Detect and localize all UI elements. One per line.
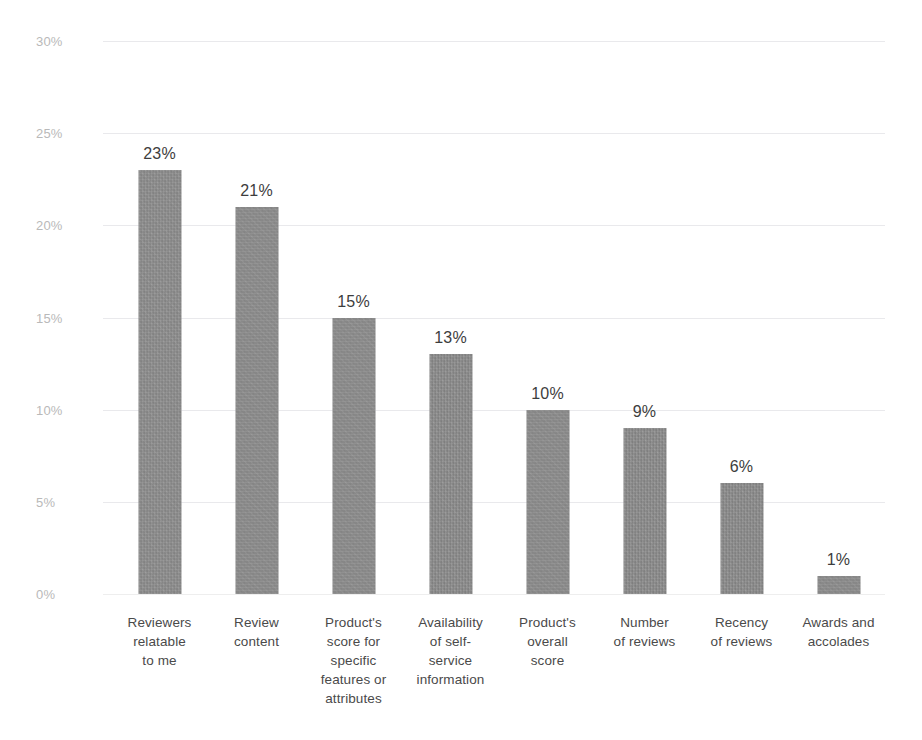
y-axis-tick-10: 10%	[36, 402, 92, 417]
x-axis-label-line: score for	[302, 632, 406, 651]
plot-area: 23%21%15%13%10%9%6%1%	[103, 41, 885, 594]
x-axis-category-label: Numberof reviews	[593, 613, 697, 651]
x-axis-label-line: Recency	[690, 613, 794, 632]
bar-value-label: 13%	[434, 329, 467, 347]
x-axis-label-line: Awards and	[787, 613, 891, 632]
x-axis-label-line: of self-	[399, 632, 503, 651]
x-axis-category-label: Product'sscore forspecificfeatures oratt…	[302, 613, 406, 708]
x-axis-label-line: attributes	[302, 689, 406, 708]
bar-chart: 30%25%20%15%10%5%0% 23%21%15%13%10%9%6%1…	[0, 0, 922, 740]
bar-value-label: 10%	[531, 385, 564, 403]
y-axis-tick-20: 20%	[36, 218, 92, 233]
y-axis-tick-30: 30%	[36, 34, 92, 49]
x-axis-label-line: Reviewers	[108, 613, 212, 632]
x-axis-category-label: Availabilityof self-serviceinformation	[399, 613, 503, 689]
bar[interactable]	[623, 428, 666, 594]
bar-value-label: 21%	[240, 182, 273, 200]
bar-slot: 13%	[402, 41, 499, 594]
bar-slot: 10%	[499, 41, 596, 594]
x-axis-label-line: service	[399, 651, 503, 670]
x-axis-label-line: Review	[205, 613, 309, 632]
x-axis-label-line: information	[399, 670, 503, 689]
bar-value-label: 9%	[633, 403, 657, 421]
bar-value-label: 15%	[337, 293, 370, 311]
x-axis-label-line: accolades	[787, 632, 891, 651]
x-axis-label-line: features or	[302, 670, 406, 689]
bar[interactable]	[429, 354, 472, 594]
x-axis-label-line: Product's	[302, 613, 406, 632]
x-axis-category-label: Product'soverallscore	[496, 613, 600, 670]
x-axis-label-line: content	[205, 632, 309, 651]
bar-slot: 6%	[693, 41, 790, 594]
x-axis-category-label: Reviewcontent	[205, 613, 309, 651]
bar[interactable]	[138, 170, 181, 594]
x-axis-label-line: Product's	[496, 613, 600, 632]
x-axis-label-line: Availability	[399, 613, 503, 632]
gridline-0	[103, 594, 885, 595]
x-axis-label-line: of reviews	[690, 632, 794, 651]
bar-slot: 9%	[596, 41, 693, 594]
x-axis-label-line: to me	[108, 651, 212, 670]
x-axis-label-line: specific	[302, 651, 406, 670]
x-axis-label-line: of reviews	[593, 632, 697, 651]
x-axis-label-line: overall	[496, 632, 600, 651]
x-axis-label-line: score	[496, 651, 600, 670]
y-axis-tick-25: 25%	[36, 126, 92, 141]
bar-slot: 15%	[305, 41, 402, 594]
x-axis-label-line: Number	[593, 613, 697, 632]
bar-value-label: 1%	[827, 551, 851, 569]
bar-slot: 1%	[790, 41, 887, 594]
y-axis-tick-5: 5%	[36, 494, 92, 509]
bar[interactable]	[720, 483, 763, 594]
bar[interactable]	[235, 207, 278, 594]
bar-value-label: 6%	[730, 458, 754, 476]
bar-slot: 21%	[208, 41, 305, 594]
bar-value-label: 23%	[143, 145, 176, 163]
x-axis-category-label: Reviewersrelatableto me	[108, 613, 212, 670]
x-axis-label-line: relatable	[108, 632, 212, 651]
x-axis-category-label: Awards andaccolades	[787, 613, 891, 651]
y-axis-tick-15: 15%	[36, 310, 92, 325]
bar[interactable]	[817, 576, 860, 594]
x-axis-category-label: Recencyof reviews	[690, 613, 794, 651]
bar-slot: 23%	[111, 41, 208, 594]
y-axis-tick-0: 0%	[36, 587, 92, 602]
bar[interactable]	[332, 318, 375, 595]
bar[interactable]	[526, 410, 569, 594]
